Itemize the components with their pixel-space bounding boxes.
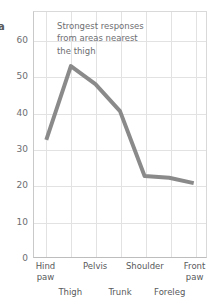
x-axis-label: Hindpaw: [36, 261, 56, 282]
y-axis-tick-label: 60: [17, 36, 28, 45]
y-axis-tick-label: 40: [17, 108, 28, 117]
y-axis-tick-label: 0: [22, 254, 28, 263]
chart-annotation: Strongest responses from areas nearest t…: [57, 20, 169, 57]
annotation-line-2: from areas nearest: [57, 32, 169, 44]
x-axis-label: Foreleg: [154, 287, 185, 298]
x-axis-labels-row-1: HindpawPelvisShoulderFrontpaw: [33, 261, 207, 285]
x-axis-label: Shoulder: [126, 261, 164, 272]
x-axis-label: Trunk: [108, 287, 131, 298]
x-axis-labels-row-2: ThighTrunkForeleg: [33, 287, 207, 301]
x-axis-label: Thigh: [58, 287, 82, 298]
figure: a 0102030405060 Strongest responses from…: [0, 0, 215, 306]
y-axis-tick-labels: 0102030405060: [0, 0, 31, 306]
annotation-line-3: the thigh: [57, 45, 169, 57]
x-axis-label: Frontpaw: [184, 261, 206, 282]
annotation-line-1: Strongest responses: [57, 20, 169, 32]
y-axis-tick-label: 50: [17, 72, 28, 81]
x-axis-label: Pelvis: [83, 261, 107, 272]
y-axis-tick-label: 20: [17, 181, 28, 190]
y-axis-tick-label: 30: [17, 145, 28, 154]
y-axis-tick-label: 10: [17, 217, 28, 226]
